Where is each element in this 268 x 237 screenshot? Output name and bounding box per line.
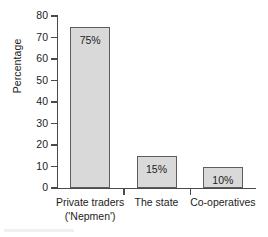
x-tick-2 [190, 189, 191, 195]
y-tick-label-70: 70 [20, 31, 48, 43]
y-tick-10 [51, 166, 57, 167]
y-tick-80 [51, 15, 57, 16]
y-tick-60 [51, 58, 57, 59]
category-label-2: Co-operatives [163, 196, 268, 210]
y-tick-70 [51, 37, 57, 38]
y-tick-label-20: 20 [20, 138, 48, 150]
category-label-0-line-1: ('Nepmen') [30, 210, 150, 224]
y-tick-label-50: 50 [20, 74, 48, 86]
y-tick-label-0: 0 [20, 181, 48, 193]
bar-value-label-1: 15% [137, 163, 177, 175]
bar-chart: Percentage 01020304050607080 75%15%10% P… [0, 0, 268, 237]
x-axis-line [57, 188, 256, 189]
category-label-2-line-0: Co-operatives [190, 196, 255, 208]
y-tick-20 [51, 144, 57, 145]
y-tick-40 [51, 101, 57, 102]
y-tick-0 [51, 187, 57, 188]
bar-value-label-2: 10% [203, 174, 243, 186]
bar-value-label-0: 75% [70, 34, 110, 46]
bar-0 [70, 27, 110, 188]
y-tick-30 [51, 123, 57, 124]
y-tick-label-40: 40 [20, 95, 48, 107]
y-tick-label-80: 80 [20, 9, 48, 21]
y-tick-label-30: 30 [20, 117, 48, 129]
scan-artifact [4, 229, 74, 232]
y-axis-line [57, 15, 58, 189]
y-tick-50 [51, 80, 57, 81]
y-tick-label-60: 60 [20, 52, 48, 64]
y-tick-label-10: 10 [20, 160, 48, 172]
x-tick-1 [123, 189, 124, 195]
